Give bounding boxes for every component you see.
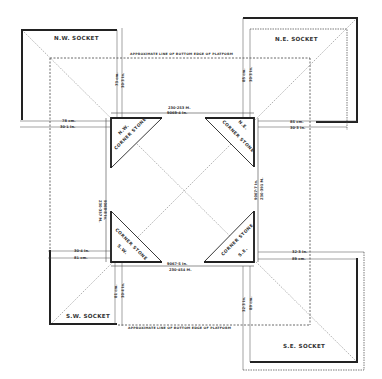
nw-corner-stone: CORNER STONE N.W. [111,117,162,168]
sw-socket-v-imperial: 30·4 In. [121,283,125,298]
north-side-metric: 230·253 M. [168,106,191,110]
platform-note-bottom: APPROXIMATE LINE OF BOTTOM EDGE OF PLATF… [128,326,231,330]
ne-socket-v-imperial: 30·3 In. [249,67,253,82]
sw-corner-stone: CORNER STONE S.W. [111,211,162,262]
sw-socket-h-metric: 81 cm. [74,256,88,260]
nw-socket-h-metric: 78 cm. [62,119,76,123]
se-socket-v-metric: 89 cm. [249,297,253,311]
se-socket: S.E. SOCKET 32·3 In. 89 cm. 32·3 In. 89 … [242,250,364,370]
ne-socket: N.E. SOCKET 85 cm. 30·3 In. 85 cm. 30·3 … [242,18,357,130]
north-side-imperial: 9069·4 In. [167,111,187,115]
south-side-imperial: 9067·5 In. [167,262,187,266]
nw-socket-h-imperial: 30·1 In. [60,125,75,129]
ne-socket-h-metric: 85 cm. [290,120,304,124]
ne-socket-label: N.E. SOCKET [275,36,318,42]
se-socket-v-imperial: 32·3 In. [242,297,246,312]
ne-socket-h-imperial: 30·3 In. [290,126,305,130]
west-side-imperial: 9068·8 In. [103,200,107,220]
nw-socket: N.W. SOCKET 78 cm. 30·1 In. 73 cm. 30·3 … [20,28,125,129]
nw-socket-v-imperial: 30·3 In. [121,73,125,88]
diagonal-lines [22,18,357,362]
east-side-imperial: 9067·7 In. [254,180,258,200]
ne-corner-stone: CORNER STONE N.E. [205,118,255,167]
se-corner-stone: CORNER STONE S.E. [204,211,254,262]
nw-socket-v-metric: 73 cm. [115,73,119,87]
se-socket-h-metric: 89 cm. [292,257,306,261]
sw-socket-label: S.W. SOCKET [66,313,110,319]
se-socket-label: S.E. SOCKET [283,343,325,349]
sw-socket-v-metric: 81 cm. [114,285,118,299]
sw-socket-h-imperial: 30·4 In. [74,249,89,253]
east-side-metric: 230·391 M. [260,177,264,200]
nw-socket-label: N.W. SOCKET [54,35,99,41]
platform-edge-outline [50,58,310,325]
ne-socket-v-metric: 85 cm. [242,69,246,83]
pyramid-base-plan: N.W. SOCKET 78 cm. 30·1 In. 73 cm. 30·3 … [0,0,382,379]
platform-note-top: APPROXIMATE LINE OF BOTTOM EDGE OF PLATF… [130,52,233,56]
se-socket-h-imperial: 32·3 In. [292,250,307,254]
west-side-metric: 230·357 M. [98,200,102,223]
south-side-metric: 230·454 M. [169,268,192,272]
